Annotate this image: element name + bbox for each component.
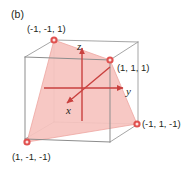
vertex-marker-bottom-back-right [133,120,140,127]
vertex-label-bottom-front-left: (1, -1, -1) [12,151,51,162]
vertex-label-top-front-right: (1, 1, 1) [117,62,149,73]
vertex-marker-top-back-left [50,36,57,43]
vertex-marker-top-front-right [106,56,113,63]
figure-panel-b: (b) (-1, -1, 1) (1, 1, 1) (-1, 1, -1) (1… [0,0,193,170]
vertex-marker-bottom-front-left [23,138,30,145]
axis-label-z: z [77,40,81,52]
vertex-label-top-back-left: (-1, -1, 1) [27,23,66,34]
panel-label: (b) [11,8,24,20]
axis-label-y: y [126,85,131,97]
axis-label-x: x [66,104,71,116]
vertex-label-bottom-back-right: (-1, 1, -1) [142,118,181,129]
